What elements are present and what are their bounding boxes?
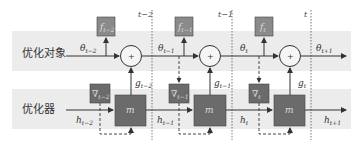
svg-text:+: +	[128, 52, 135, 61]
timestep-label: t−1	[218, 10, 233, 19]
timestep-label: t−2	[138, 10, 153, 19]
objective-row-label: 优化对象	[22, 46, 66, 60]
svg-text:m: m	[205, 105, 214, 115]
g-label: gt−2	[135, 78, 152, 89]
svg-text:+: +	[207, 52, 214, 61]
svg-text:+: +	[287, 52, 294, 61]
svg-text:m: m	[285, 105, 294, 115]
timestep-label: t	[304, 10, 308, 19]
m-box-group: m m m	[115, 95, 305, 126]
g-label: gt	[298, 78, 307, 89]
learning-to-learn-diagram: 优化对象 优化器 t−2 t−1 t θt−2 θt−1 θt θt+1 ft−…	[0, 0, 351, 147]
optimizer-row-label: 优化器	[22, 102, 55, 116]
svg-text:m: m	[126, 105, 135, 115]
g-label: gt−1	[214, 78, 231, 89]
